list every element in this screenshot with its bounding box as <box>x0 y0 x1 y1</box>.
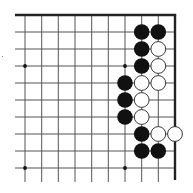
white-stone[interactable] <box>151 127 166 142</box>
white-stone[interactable] <box>168 127 183 142</box>
grid-lines <box>15 15 175 182</box>
white-stone[interactable] <box>134 93 149 108</box>
white-stone[interactable] <box>151 76 166 91</box>
stones-layer <box>117 24 182 159</box>
star-point-icon <box>23 166 27 170</box>
white-stone[interactable] <box>134 76 149 91</box>
black-stone[interactable] <box>151 143 167 159</box>
star-point-icon <box>123 64 127 68</box>
black-stone[interactable] <box>151 24 167 40</box>
white-stone[interactable] <box>151 59 166 74</box>
black-stone[interactable] <box>117 92 133 108</box>
black-stone[interactable] <box>134 58 150 74</box>
white-stone[interactable] <box>151 42 166 57</box>
black-stone[interactable] <box>117 75 133 91</box>
star-point-icon <box>23 64 27 68</box>
black-stone[interactable] <box>134 41 150 57</box>
black-stone[interactable] <box>117 109 133 125</box>
black-stone[interactable] <box>134 143 150 159</box>
go-board[interactable] <box>0 0 193 193</box>
star-point-icon <box>123 166 127 170</box>
black-stone[interactable] <box>134 126 150 142</box>
white-stone[interactable] <box>134 110 149 125</box>
black-stone[interactable] <box>134 24 150 40</box>
